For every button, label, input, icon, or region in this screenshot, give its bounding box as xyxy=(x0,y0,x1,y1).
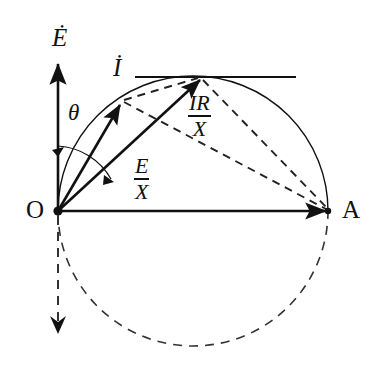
theta-arc-arrowhead-left xyxy=(52,147,64,157)
point-a-dot xyxy=(325,208,331,214)
theta-arc-arrowhead-right xyxy=(103,175,114,185)
phasor-diagram-canvas xyxy=(0,0,379,377)
dashed-line-ex-tip-to-a xyxy=(203,80,327,208)
e-over-x-label: E X xyxy=(134,155,149,204)
lower-semicircle-dashed xyxy=(58,211,328,346)
ir-over-x-label: IR X xyxy=(188,92,211,141)
theta-label: θ xyxy=(68,101,79,124)
ir-over-x-numerator: IR xyxy=(188,92,211,114)
phasor-diagram-figure: Ė İ θ O A E X IR X xyxy=(0,0,379,377)
point-a-label: A xyxy=(342,197,360,222)
ir-over-x-denominator: X xyxy=(188,118,211,140)
e-over-x-denominator: X xyxy=(134,181,149,203)
vertical-axis-label: Ė xyxy=(52,25,67,50)
current-phasor-label: İ xyxy=(113,55,121,80)
origin-dot xyxy=(53,206,62,215)
e-over-x-phasor-arrow xyxy=(58,80,200,211)
origin-label: O xyxy=(26,197,44,222)
e-over-x-numerator: E xyxy=(134,155,149,177)
dashed-line-i-tip-to-a xyxy=(124,102,326,209)
theta-arc xyxy=(58,146,111,179)
